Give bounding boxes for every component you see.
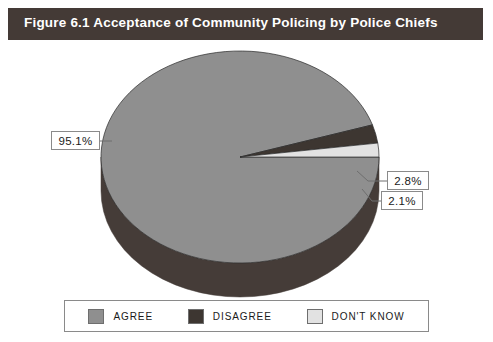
figure-title: Figure 6.1 Acceptance of Community Polic… [24, 15, 438, 30]
figure-container: Figure 6.1 Acceptance of Community Polic… [0, 0, 493, 342]
legend-item-agree: AGREE [88, 309, 153, 324]
legend-label-dont-know: DON'T KNOW [332, 311, 405, 322]
legend-swatch-agree [88, 309, 104, 324]
legend-label-disagree: DISAGREE [213, 311, 272, 322]
callout-agree: 95.1% [51, 131, 100, 150]
chart-legend: AGREE DISAGREE DON'T KNOW [64, 300, 429, 332]
legend-item-disagree: DISAGREE [188, 309, 272, 324]
callout-disagree: 2.8% [387, 171, 429, 190]
callout-dont-know: 2.1% [381, 191, 423, 210]
pie-top-slices [101, 51, 379, 263]
legend-label-agree: AGREE [113, 311, 153, 322]
figure-title-bar: Figure 6.1 Acceptance of Community Polic… [8, 8, 483, 40]
legend-item-dont-know: DON'T KNOW [307, 309, 405, 324]
legend-swatch-disagree [188, 309, 204, 324]
legend-swatch-dont-know [307, 309, 323, 324]
